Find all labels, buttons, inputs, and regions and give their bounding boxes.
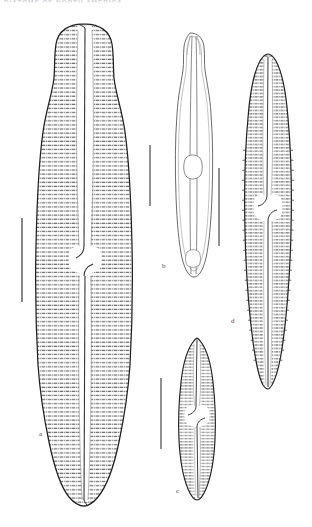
valve-b	[175, 33, 212, 277]
valve-c	[172, 332, 224, 508]
plate-drawing-canvas	[0, 0, 312, 527]
figure-label-d: d	[231, 317, 235, 325]
valve-d	[240, 48, 298, 396]
figure-plate: DIATOMS OF NORTH AMERICA	[0, 0, 312, 527]
figure-label-c: c	[176, 487, 179, 495]
figure-label-a: a	[39, 430, 42, 438]
valve-a	[30, 20, 140, 512]
figure-label-b: b	[162, 262, 166, 270]
